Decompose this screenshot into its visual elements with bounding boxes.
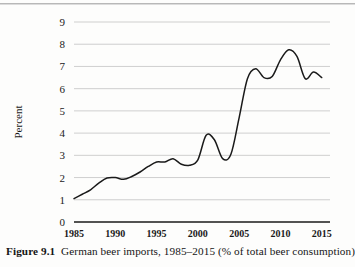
y-tick-label: 6 [60, 83, 66, 95]
line-chart: 0123456789 1985199019952000200520102015 … [0, 8, 355, 240]
y-tick-label: 5 [60, 105, 66, 117]
y-tick-label: 1 [60, 194, 66, 206]
x-tick-label: 1985 [64, 228, 84, 239]
x-axis-tick-labels: 1985199019952000200520102015 [64, 228, 332, 239]
y-axis-title: Percent [12, 106, 24, 139]
y-tick-label: 8 [60, 38, 66, 50]
chart-svg: 0123456789 1985199019952000200520102015 … [0, 8, 355, 240]
y-tick-label: 3 [60, 149, 66, 161]
y-tick-label: 7 [60, 60, 66, 72]
y-tick-label: 2 [60, 172, 66, 184]
x-tick-label: 2015 [312, 228, 332, 239]
x-tick-label: 1995 [147, 228, 167, 239]
x-tick-label: 2010 [270, 228, 290, 239]
caption-text: German beer imports, 1985–2015 (% of tot… [61, 245, 355, 257]
caption-label: Figure 9.1 [6, 245, 55, 257]
x-tick-label: 2000 [188, 228, 208, 239]
y-tick-label: 0 [60, 216, 66, 228]
y-tick-label: 9 [60, 16, 66, 28]
y-axis-tick-labels: 0123456789 [60, 16, 66, 228]
data-series-line [74, 50, 322, 199]
gridlines [74, 22, 330, 200]
scan-artifact-rule-secondary [0, 4, 355, 5]
figure-page: 0123456789 1985199019952000200520102015 … [0, 0, 355, 267]
figure-caption: Figure 9.1 German beer imports, 1985–201… [6, 245, 351, 257]
x-tick-label: 2005 [229, 228, 249, 239]
x-tick-label: 1990 [105, 228, 125, 239]
y-tick-label: 4 [60, 127, 66, 139]
